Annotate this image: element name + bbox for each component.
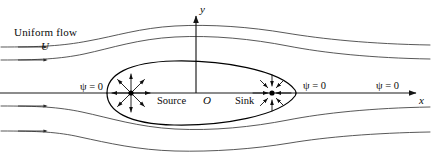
source-label: Source	[157, 96, 186, 107]
figure-background	[0, 0, 431, 157]
psi-label-right: ψ = 0	[376, 81, 399, 92]
source-singularity	[112, 74, 150, 112]
psi-label-left: ψ = 0	[80, 82, 103, 93]
sink-point	[269, 90, 274, 95]
y-axis-label: y	[200, 4, 205, 15]
source-point	[128, 90, 133, 95]
sink-label: Sink	[235, 96, 254, 107]
x-axis-label: x	[419, 95, 424, 106]
psi-label-middle: ψ = 0	[303, 81, 326, 92]
rankine-oval-figure	[0, 0, 431, 157]
uniform-flow-label: Uniform flow	[14, 27, 77, 38]
free-stream-speed-label: U	[41, 41, 49, 52]
origin-label: O	[203, 95, 211, 106]
